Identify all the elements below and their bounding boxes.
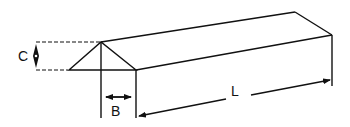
label-b: B bbox=[111, 103, 120, 119]
label-c: C bbox=[18, 48, 28, 64]
dimension-l: L bbox=[139, 80, 330, 116]
dimension-c: C bbox=[18, 42, 100, 70]
dimension-b: B bbox=[106, 97, 131, 119]
label-l: L bbox=[231, 83, 239, 99]
prism-diagram: C B L bbox=[0, 0, 350, 127]
prism-outline bbox=[69, 12, 332, 118]
